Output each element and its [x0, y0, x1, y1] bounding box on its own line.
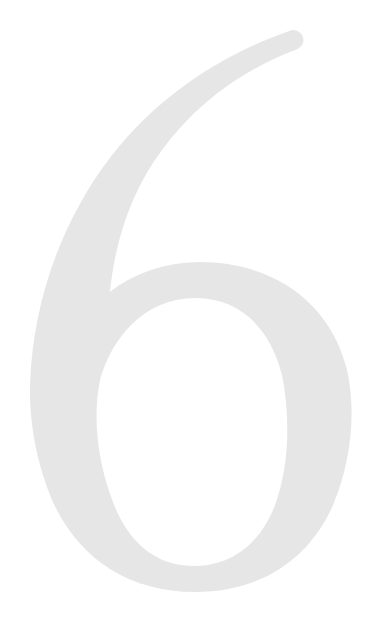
chapter-numeral-six: [0, 0, 386, 631]
page: 6: [0, 0, 386, 631]
